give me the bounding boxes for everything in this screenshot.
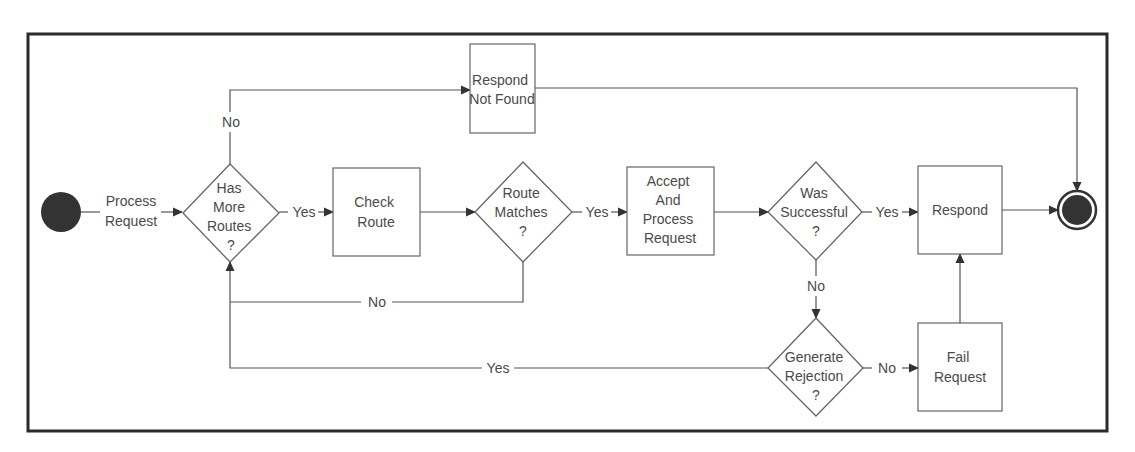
process-accept-and-process-request: Accept And Process Request	[627, 167, 714, 255]
edge-label-was-successful-no: No	[807, 278, 825, 294]
flowchart-diagram: ProcessRequest Yes No Yes No Yes No Yes …	[0, 0, 1135, 452]
edge-label-process-request: ProcessRequest	[105, 193, 157, 229]
process-fail-request: Fail Request	[918, 323, 1002, 411]
start-node	[41, 192, 81, 232]
edge-label-generate-rejection-yes: Yes	[487, 360, 510, 376]
edge-label-has-more-no: No	[222, 114, 240, 130]
edge-label-has-more-yes: Yes	[293, 204, 316, 220]
decision-has-more-routes: Has More Routes ?	[183, 164, 279, 262]
edge-label-was-successful-yes: Yes	[876, 204, 899, 220]
decision-was-successful: Was Successful ?	[768, 162, 862, 260]
decision-generate-rejection: Generate Rejection ?	[768, 318, 863, 416]
edge-label-route-matches-no: No	[368, 294, 386, 310]
end-node	[1058, 191, 1096, 229]
edge-label-route-matches-yes: Yes	[586, 204, 609, 220]
decision-route-matches: Route Matches ?	[475, 162, 572, 262]
edge-route-matches-no-right	[392, 262, 523, 302]
process-respond: Respond	[918, 166, 1002, 254]
edge-generate-rejection-yes-left	[230, 262, 482, 368]
process-respond-not-found: Respond Not Found	[469, 44, 535, 133]
edge-has-more-no-arrow	[230, 90, 470, 112]
process-check-route: Check Route	[333, 168, 420, 256]
svg-text:Respond: Respond	[932, 202, 988, 218]
edge-label-generate-rejection-no: No	[878, 360, 896, 376]
